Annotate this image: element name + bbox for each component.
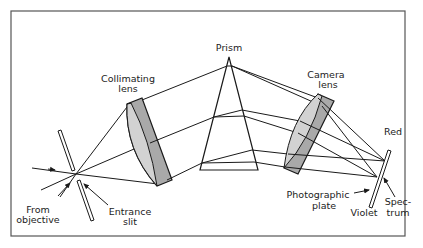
photographic-plate-pointer [354, 190, 369, 193]
label-violet: Violet [351, 207, 378, 218]
spectrum-pointer [384, 178, 395, 197]
label-spectrum-1: Spec- [385, 196, 412, 207]
label-camera-lens-2: lens [318, 79, 338, 90]
label-photographic-plate-2: plate [312, 200, 336, 211]
label-from-objective-2: objective [16, 214, 60, 225]
diagram-frame [11, 11, 405, 236]
collimating-lens [127, 98, 172, 186]
from-objective-pointer [58, 183, 70, 196]
label-collimating-lens-2: lens [118, 83, 138, 94]
incoming-rays [32, 168, 76, 197]
label-entrance-slit-2: slit [123, 216, 137, 227]
spectrograph-diagram: Prism Collimating lens Camera lens Red S… [0, 0, 423, 248]
label-prism: Prism [216, 42, 242, 53]
label-photographic-plate-1: Photographic [287, 189, 350, 200]
label-red: Red [384, 126, 402, 137]
label-spectrum-2: trum [387, 207, 410, 218]
